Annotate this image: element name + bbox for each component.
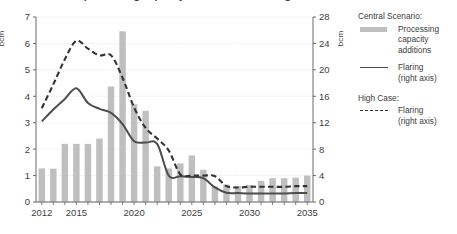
legend-label-line1: Processing — [398, 24, 457, 35]
svg-text:2035: 2035 — [297, 207, 318, 218]
legend-group-high-case: High Case: Flaring (right axis) — [358, 93, 457, 127]
svg-text:2012: 2012 — [31, 207, 52, 218]
legend-label-line2: (right axis) — [398, 73, 457, 84]
legend-label-line3: additions — [398, 45, 457, 56]
svg-text:4: 4 — [319, 170, 324, 181]
plot-svg: 01234567 0481216202428 20122015202020252… — [0, 0, 340, 234]
plot-area: 01234567 0481216202428 20122015202020252… — [0, 0, 340, 234]
svg-text:2025: 2025 — [181, 207, 202, 218]
svg-text:7: 7 — [25, 11, 30, 22]
legend-group-title: High Case: — [358, 93, 457, 104]
legend-label-line1: Flaring — [398, 62, 457, 73]
legend-item-flaring-high-case[interactable]: Flaring (right axis) — [358, 105, 457, 126]
line-series-flaring-high-case — [42, 41, 307, 188]
y-axis-left-ticks: 01234567 — [25, 11, 36, 207]
dashed-line-swatch-icon — [358, 105, 392, 116]
svg-text:20: 20 — [319, 64, 330, 75]
legend-item-label: Flaring (right axis) — [398, 105, 457, 126]
svg-text:5: 5 — [25, 64, 30, 75]
legend-item-processing-capacity-additions[interactable]: Processing capacity additions — [358, 24, 457, 56]
svg-text:6: 6 — [25, 38, 30, 49]
svg-text:24: 24 — [319, 38, 330, 49]
y-axis-right-ticks: 0481216202428 — [313, 11, 330, 207]
svg-text:1: 1 — [25, 170, 30, 181]
svg-text:0: 0 — [319, 196, 324, 207]
svg-text:2030: 2030 — [239, 207, 260, 218]
svg-text:28: 28 — [319, 11, 330, 22]
legend-label-line2: capacity — [398, 34, 457, 45]
svg-text:2015: 2015 — [66, 207, 87, 218]
legend-group-central-scenario: Central Scenario: Processing capacity ad… — [358, 11, 457, 84]
bar-series-processing-capacity-additions — [39, 31, 311, 202]
svg-text:3: 3 — [25, 117, 30, 128]
line-series-flaring-central — [42, 88, 307, 193]
y-axis-right-unit-label: bcm — [336, 31, 345, 47]
svg-text:16: 16 — [319, 91, 330, 102]
svg-text:4: 4 — [25, 91, 30, 102]
legend-item-label: Flaring (right axis) — [398, 62, 457, 83]
chart-figure: Gas processing capacity additions and fl… — [0, 0, 457, 234]
svg-text:2: 2 — [25, 144, 30, 155]
legend-group-title: Central Scenario: — [358, 11, 457, 22]
y-axis-left-unit-label: bcm — [0, 31, 6, 47]
legend-item-label: Processing capacity additions — [398, 24, 457, 56]
bar-swatch-icon — [358, 24, 392, 35]
svg-text:0: 0 — [25, 196, 30, 207]
svg-text:2020: 2020 — [124, 207, 145, 218]
legend-label-line2: (right axis) — [398, 116, 457, 127]
chart-legend: Central Scenario: Processing capacity ad… — [358, 11, 457, 127]
solid-line-swatch-icon — [358, 62, 392, 73]
x-axis-ticks: 201220152020202520302035 — [31, 202, 318, 218]
svg-text:12: 12 — [319, 117, 330, 128]
legend-item-flaring-central[interactable]: Flaring (right axis) — [358, 62, 457, 83]
legend-label-line1: Flaring — [398, 105, 457, 116]
svg-text:8: 8 — [319, 144, 324, 155]
